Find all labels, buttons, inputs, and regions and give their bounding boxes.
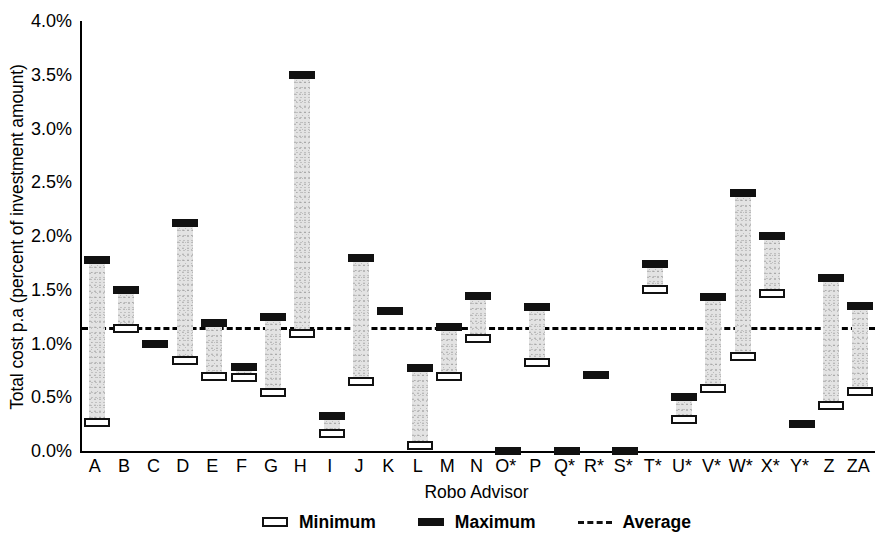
maximum-marker (671, 393, 697, 401)
chart-column (346, 21, 375, 451)
x-axis-tick-label: H (294, 454, 307, 478)
x-axis-tick-label: T* (644, 454, 662, 478)
x-axis-tick-label: O* (495, 454, 516, 478)
x-axis-tick-label: ZA (847, 454, 870, 478)
x-axis-tick-label: P (529, 454, 541, 478)
legend-label-average: Average (623, 512, 691, 533)
range-band (177, 223, 193, 360)
minimum-marker (642, 285, 668, 294)
chart-column (258, 21, 287, 451)
range-band (206, 323, 222, 376)
average-swatch-icon (578, 521, 612, 524)
x-axis-tick-label: Y* (790, 454, 809, 478)
chart-column (846, 21, 875, 451)
x-axis-tick-label: Q* (554, 454, 575, 478)
chart-column (728, 21, 757, 451)
x-axis-tick-label: E (206, 454, 218, 478)
chart-column (669, 21, 698, 451)
maximum-marker (789, 420, 815, 428)
x-axis-tick-label: D (176, 454, 189, 478)
minimum-marker (759, 289, 785, 298)
chart-column (787, 21, 816, 451)
x-axis-tick-label: K (382, 454, 394, 478)
x-axis-tick-label: S* (614, 454, 633, 478)
y-axis-tick-labels: 4.0%3.5%3.0%2.5%2.0%1.5%1.0%0.5%0.0% (14, 0, 72, 537)
chart-column (581, 21, 610, 451)
minimum-marker (407, 441, 433, 450)
legend-item-maximum: Maximum (418, 512, 536, 533)
chart-figure: Total cost p.a (percent of investment am… (0, 0, 881, 537)
y-axis-tick-label: 1.0% (14, 335, 72, 353)
chart-column (405, 21, 434, 451)
minimum-swatch-icon (262, 517, 288, 527)
minimum-marker (172, 356, 198, 365)
maximum-marker (524, 303, 550, 311)
chart-column (493, 21, 522, 451)
range-band (529, 307, 545, 362)
minimum-marker (113, 324, 139, 333)
minimum-marker (847, 387, 873, 396)
maximum-marker (84, 256, 110, 264)
x-axis-tick-label: J (355, 454, 364, 478)
chart-column (288, 21, 317, 451)
minimum-marker (84, 418, 110, 427)
x-axis-tick-label: M (440, 454, 455, 478)
minimum-marker (730, 352, 756, 361)
y-axis-tick-label: 3.0% (14, 120, 72, 138)
x-axis-tick-label: L (413, 454, 423, 478)
chart-column (552, 21, 581, 451)
minimum-marker (524, 358, 550, 367)
minimum-marker (319, 429, 345, 438)
x-axis-tick-label: V* (702, 454, 721, 478)
maximum-marker (583, 371, 609, 379)
x-axis-tick-label: C (147, 454, 160, 478)
chart-column (816, 21, 845, 451)
range-band (294, 75, 310, 333)
maximum-marker (289, 71, 315, 79)
chart-column (141, 21, 170, 451)
y-axis-tick-label: 0.5% (14, 388, 72, 406)
x-axis-tick-label: Z (823, 454, 834, 478)
chart-column (434, 21, 463, 451)
maximum-marker (113, 286, 139, 294)
maximum-marker (759, 232, 785, 240)
maximum-marker (319, 412, 345, 420)
chart-column (82, 21, 111, 451)
maximum-marker (642, 260, 668, 268)
chart-column (758, 21, 787, 451)
chart-column (229, 21, 258, 451)
chart-column (611, 21, 640, 451)
plot-area (80, 21, 875, 453)
chart-column (376, 21, 405, 451)
range-band (852, 306, 868, 391)
minimum-marker (231, 373, 257, 382)
y-axis-tick-label: 4.0% (14, 12, 72, 30)
x-axis-tick-label: R* (584, 454, 604, 478)
minimum-marker (201, 372, 227, 381)
legend-label-maximum: Maximum (455, 512, 536, 533)
x-axis-tick-label: G (264, 454, 278, 478)
chart-legend: Minimum Maximum Average (80, 508, 873, 536)
maximum-swatch-icon (418, 518, 444, 526)
minimum-marker (289, 329, 315, 338)
x-axis-tick-label: I (327, 454, 332, 478)
legend-item-minimum: Minimum (262, 512, 376, 533)
x-axis-title: Robo Advisor (80, 481, 873, 503)
maximum-marker (436, 323, 462, 331)
x-axis-tick-label: A (89, 454, 101, 478)
maximum-marker (730, 189, 756, 197)
maximum-marker (818, 274, 844, 282)
maximum-marker (231, 363, 257, 371)
range-band (412, 368, 428, 444)
chart-column (111, 21, 140, 451)
maximum-marker (201, 319, 227, 327)
x-axis-tick-label: X* (761, 454, 780, 478)
minimum-marker (348, 377, 374, 386)
x-axis-tick-label: F (236, 454, 247, 478)
maximum-marker (700, 293, 726, 301)
maximum-marker (172, 219, 198, 227)
y-axis-tick-label: 2.0% (14, 227, 72, 245)
chart-column (464, 21, 493, 451)
legend-label-minimum: Minimum (299, 512, 376, 533)
minimum-marker (818, 401, 844, 410)
